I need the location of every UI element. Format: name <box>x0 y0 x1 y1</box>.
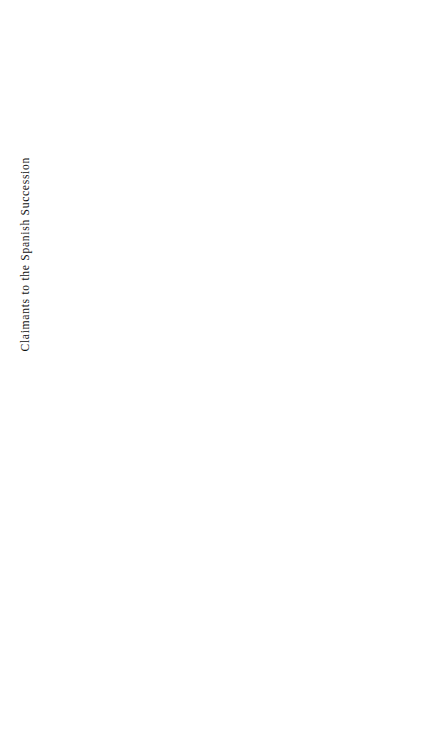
screenshot-canvas: Claimants to the Spanish Succession PHIL… <box>0 0 440 747</box>
rotated-chart-container: Claimants to the Spanish Succession PHIL… <box>0 0 440 747</box>
family-tree-diagram: Claimants to the Spanish Succession PHIL… <box>0 0 440 747</box>
page-title: Claimants to the Spanish Succession <box>18 156 31 351</box>
